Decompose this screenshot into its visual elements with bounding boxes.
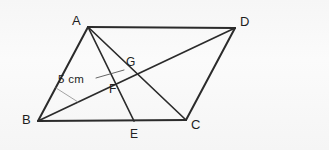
vertex-label-D: D	[240, 15, 250, 28]
point-label-E: E	[130, 128, 138, 140]
segment-BC	[38, 120, 186, 121]
segment-AC-diagonal	[88, 27, 186, 120]
leader-line-lower-icon	[56, 88, 78, 102]
point-label-F: F	[109, 83, 116, 95]
vertex-label-A: A	[72, 14, 81, 27]
measurement-label-5cm: 5 cm	[58, 74, 84, 86]
segment-DC	[186, 28, 235, 120]
figure-drawing	[0, 0, 329, 150]
vertex-label-B: B	[22, 113, 31, 126]
vertex-label-C: C	[191, 118, 201, 131]
point-label-G: G	[126, 56, 135, 68]
segment-AD	[88, 27, 235, 28]
geometry-figure: A D C B E F G 5 cm	[0, 0, 329, 150]
